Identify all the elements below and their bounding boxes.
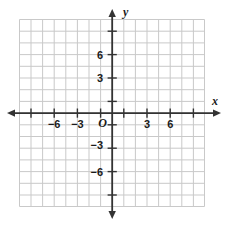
x-axis-tick-labels: −6 −3 3 6	[48, 118, 173, 130]
x-tick-label-6: 6	[167, 118, 173, 130]
x-axis-arrow-left	[7, 109, 15, 116]
y-axis-arrow-down	[109, 211, 116, 219]
y-tick-label-6: 6	[97, 49, 103, 61]
x-axis	[7, 109, 221, 116]
y-axis-arrow-up	[109, 9, 116, 17]
x-axis-label: x	[211, 94, 218, 108]
coordinate-plane-figure: −6 −3 3 6 6 3 −3 −6 O y x	[0, 0, 229, 229]
x-tick-label-neg6: −6	[48, 118, 61, 130]
x-tick-label-3: 3	[144, 118, 150, 130]
x-axis-arrow-right	[213, 109, 221, 116]
y-axis-label: y	[121, 5, 129, 19]
y-tick-label-neg3: −3	[90, 139, 103, 151]
y-tick-label-3: 3	[97, 72, 103, 84]
coordinate-grid-svg: −6 −3 3 6 6 3 −3 −6 O y x	[0, 0, 229, 229]
origin-label: O	[98, 116, 107, 130]
y-tick-label-neg6: −6	[90, 166, 103, 178]
x-tick-label-neg3: −3	[71, 118, 84, 130]
